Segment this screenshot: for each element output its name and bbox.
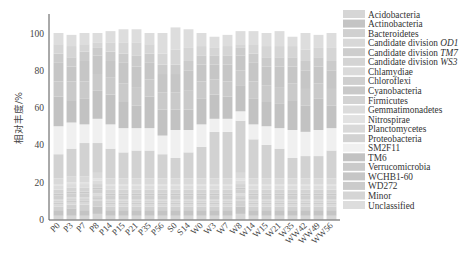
- bar-segment: [93, 195, 103, 197]
- bar-segment: [210, 193, 220, 195]
- bar-segment: [54, 199, 64, 201]
- bar-segment: [210, 205, 220, 207]
- bar-segment: [171, 210, 181, 216]
- legend-label: WD272: [368, 181, 398, 191]
- legend-label: Verrucomicrobia: [368, 162, 430, 172]
- bar-segment: [275, 190, 285, 194]
- bar-segment: [145, 205, 155, 207]
- y-tick-label: 100: [30, 29, 45, 39]
- bar-segment: [223, 55, 233, 64]
- bar-segment: [132, 205, 142, 207]
- bar-segment: [301, 184, 311, 186]
- bar-segment: [106, 42, 116, 51]
- bar-segment: [249, 203, 259, 205]
- bar-segment: [301, 210, 311, 216]
- bar-segment: [288, 190, 298, 194]
- bar-segment: [197, 195, 207, 199]
- bar-WW49: [314, 35, 324, 220]
- bar-segment: [301, 203, 311, 205]
- bar-segment: [288, 67, 298, 84]
- bar-segment: [106, 206, 116, 210]
- bar-segment: [262, 126, 272, 145]
- bar-segment: [93, 184, 103, 188]
- bar-segment: [184, 193, 194, 195]
- bar-segment: [210, 132, 220, 179]
- bar-segment: [197, 178, 207, 184]
- bar-segment: [93, 91, 103, 119]
- bar-segment: [132, 106, 142, 128]
- bar-segment: [223, 193, 233, 195]
- bar-segment: [106, 201, 116, 203]
- bar-segment: [327, 128, 337, 150]
- bar-segment: [54, 126, 64, 154]
- bar-segment: [236, 193, 246, 195]
- bar-segment: [93, 193, 103, 195]
- bar-segment: [80, 199, 90, 201]
- bar-segment: [171, 74, 181, 93]
- bar-segment: [288, 46, 298, 57]
- bar-segment: [184, 130, 194, 152]
- bar-segment: [132, 42, 142, 55]
- bar-segment: [119, 199, 129, 201]
- legend-label: Candidate division TM7: [368, 48, 458, 58]
- bar-segment: [158, 186, 168, 190]
- bar-segment: [223, 46, 233, 55]
- bar-segment: [210, 55, 220, 64]
- bar-segment: [145, 80, 155, 97]
- bar-segment: [262, 85, 272, 102]
- bar-segment: [106, 52, 116, 61]
- bar-segment: [236, 55, 246, 70]
- bar-segment: [210, 216, 220, 220]
- bar-P35: [145, 33, 155, 220]
- bar-segment: [236, 214, 246, 220]
- bar-segment: [314, 57, 324, 66]
- bar-segment: [275, 216, 285, 220]
- bar-segment: [314, 98, 324, 130]
- legend-swatch: [343, 39, 365, 47]
- bar-segment: [288, 199, 298, 201]
- legend-label: Bacteroidetes: [368, 29, 419, 39]
- bar-segment: [301, 195, 311, 199]
- y-tick-label: 20: [35, 178, 45, 188]
- bar-segment: [327, 210, 337, 216]
- bar-segment: [184, 178, 194, 184]
- bar-segment: [171, 65, 181, 74]
- bar-segment: [262, 33, 272, 46]
- bar-segment: [93, 206, 103, 213]
- bar-segment: [158, 178, 168, 184]
- bar-segment: [314, 206, 324, 210]
- bar-segment: [119, 201, 129, 203]
- bar-segment: [210, 119, 220, 132]
- bar-segment: [93, 119, 103, 143]
- legend-swatch: [343, 96, 365, 104]
- bar-segment: [119, 54, 129, 63]
- bar-segment: [288, 83, 298, 100]
- bar-segment: [119, 83, 129, 102]
- legend-label: Actinobacteria: [368, 19, 423, 29]
- bar-segment: [236, 111, 246, 120]
- bar-segment: [249, 216, 259, 220]
- bar-segment: [275, 31, 285, 46]
- bar-segment: [184, 109, 194, 130]
- bar-segment: [119, 184, 129, 186]
- bar-P7: [80, 33, 90, 220]
- bar-segment: [327, 89, 337, 106]
- bar-segment: [54, 210, 64, 216]
- bar-segment: [67, 123, 77, 149]
- bar-segment: [210, 210, 220, 216]
- bar-segment: [132, 55, 142, 66]
- bar-segment: [93, 188, 103, 190]
- bar-segment: [223, 96, 233, 118]
- bar-segment: [275, 57, 285, 66]
- bar-segment: [314, 130, 324, 156]
- bar-segment: [119, 203, 129, 205]
- bar-segment: [236, 121, 246, 173]
- bar-segment: [210, 201, 220, 203]
- legend-swatch: [343, 163, 365, 171]
- bar-segment: [301, 205, 311, 207]
- bar-segment: [67, 192, 77, 194]
- bar-segment: [67, 199, 77, 201]
- bar-segment: [210, 65, 220, 80]
- bar-segment: [132, 178, 142, 184]
- bar-segment: [67, 46, 77, 57]
